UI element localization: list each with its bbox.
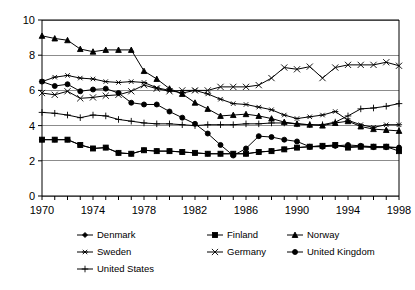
legend-label: Norway: [307, 229, 339, 240]
data-point-marker: [358, 143, 363, 148]
y-tick-label: 0: [29, 190, 35, 202]
chart-container: 0246810 19701974197819821986199019941998…: [0, 0, 415, 290]
data-point-marker: [167, 149, 172, 154]
data-point-marker: [116, 150, 121, 155]
data-point-marker: [91, 146, 96, 151]
x-tick-label: 1998: [387, 204, 411, 216]
data-point-marker: [52, 84, 57, 89]
data-point-marker: [129, 100, 134, 105]
data-point-marker: [103, 145, 108, 150]
data-point-marker: [256, 150, 261, 155]
data-point-marker: [244, 146, 249, 151]
data-point-marker: [205, 131, 210, 136]
data-point-marker: [371, 144, 376, 149]
line-chart: 0246810 19701974197819821986199019941998…: [0, 0, 415, 290]
x-tick-label: 1982: [183, 204, 207, 216]
data-point-marker: [333, 143, 338, 148]
y-tick-label: 6: [29, 84, 35, 96]
data-point-marker: [269, 149, 274, 154]
data-point-marker: [180, 115, 185, 120]
data-point-marker: [154, 102, 159, 107]
legend-label: Germany: [227, 246, 266, 257]
x-tick-label: 1970: [30, 204, 54, 216]
data-point-marker: [282, 137, 287, 142]
data-point-marker: [65, 137, 70, 142]
legend-label: Sweden: [97, 246, 131, 257]
data-point-marker: [282, 147, 287, 152]
data-point-marker: [218, 142, 223, 147]
y-tick-label: 10: [23, 14, 35, 26]
data-point-marker: [129, 151, 134, 156]
data-point-marker: [142, 148, 147, 153]
y-tick-label: 4: [29, 120, 35, 132]
data-point-marker: [293, 250, 298, 255]
data-point-marker: [213, 233, 218, 238]
data-point-marker: [295, 139, 300, 144]
x-tick-label: 1990: [285, 204, 309, 216]
data-point-marker: [154, 149, 159, 154]
data-point-marker: [218, 151, 223, 156]
data-point-marker: [167, 109, 172, 114]
data-point-marker: [320, 144, 325, 149]
legend-label: United Kingdom: [307, 246, 375, 257]
x-tick-label: 1994: [336, 204, 360, 216]
data-point-marker: [205, 151, 210, 156]
data-point-marker: [116, 91, 121, 96]
data-point-marker: [78, 142, 83, 147]
data-point-marker: [256, 134, 261, 139]
data-point-marker: [307, 144, 312, 149]
x-tick-label: 1986: [234, 204, 258, 216]
data-point-marker: [142, 102, 147, 107]
data-point-marker: [180, 150, 185, 155]
y-tick-label: 2: [29, 155, 35, 167]
data-point-marker: [103, 86, 108, 91]
legend-label: Denmark: [97, 229, 136, 240]
y-tick-label: 8: [29, 49, 35, 61]
data-point-marker: [269, 135, 274, 140]
x-tick-label: 1974: [81, 204, 105, 216]
legend-label: United States: [97, 263, 154, 274]
data-point-marker: [65, 82, 70, 87]
data-point-marker: [78, 89, 83, 94]
data-point-marker: [40, 137, 45, 142]
data-point-marker: [346, 142, 351, 147]
data-point-marker: [397, 145, 402, 150]
data-point-marker: [231, 153, 236, 158]
data-point-marker: [40, 79, 45, 84]
data-point-marker: [193, 150, 198, 155]
legend-label: Finland: [227, 229, 258, 240]
data-point-marker: [384, 144, 389, 149]
data-point-marker: [295, 145, 300, 150]
data-point-marker: [91, 87, 96, 92]
x-tick-label: 1978: [132, 204, 156, 216]
data-point-marker: [244, 151, 249, 156]
data-point-marker: [52, 137, 57, 142]
